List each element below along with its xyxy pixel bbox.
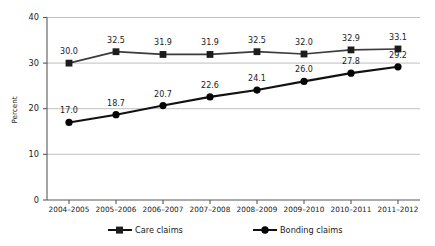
care-claims-point	[348, 46, 355, 53]
care-claims-point	[254, 48, 261, 55]
y-tick-label-0: 0	[34, 195, 39, 205]
legend-item-care-claims[interactable]: Care claims	[108, 225, 183, 235]
y-axis-tick-labels: 40 30 20 10 0	[29, 12, 39, 205]
bonding-claims-value-label: 20.7	[154, 90, 172, 99]
care-claims-value-label: 31.9	[154, 38, 172, 47]
line-chart: 40 30 20 10 0 Percent 2004–2005 2005–200…	[0, 0, 435, 246]
legend: Care claims Bonding claims	[108, 225, 343, 235]
bonding-claims-value-label: 17.0	[60, 106, 78, 115]
bonding-claims-point	[253, 86, 260, 93]
bonding-claims-value-label: 29.2	[389, 51, 407, 60]
bonding-claims-value-label: 27.8	[342, 57, 360, 66]
x-axis-tick-labels: 2004–2005 2005–2006 2006–2007 2007–2008 …	[49, 205, 419, 214]
bonding-claims-point	[206, 93, 213, 100]
series-bonding-claims: 17.018.720.722.624.126.027.829.2	[60, 51, 407, 126]
care-claims-value-label: 32.0	[295, 38, 313, 47]
bonding-claims-point	[65, 119, 72, 126]
y-tick-label-40: 40	[29, 12, 39, 22]
x-tick-label-4: 2008–2009	[237, 205, 278, 214]
bonding-claims-markers	[65, 63, 401, 126]
bonding-claims-value-label: 26.0	[295, 65, 313, 74]
x-tick-label-1: 2005–2006	[96, 205, 137, 214]
bonding-claims-point	[159, 102, 166, 109]
care-claims-point	[160, 51, 167, 58]
y-tick-label-30: 30	[29, 58, 39, 68]
bonding-claims-value-label: 18.7	[107, 99, 125, 108]
chart-canvas: 40 30 20 10 0 Percent 2004–2005 2005–200…	[0, 0, 435, 246]
care-claims-point	[66, 60, 73, 67]
care-claims-value-label: 32.5	[248, 36, 266, 45]
x-tick-label-3: 2007–2008	[190, 205, 231, 214]
square-marker-icon	[116, 227, 123, 234]
bonding-claims-point	[394, 63, 401, 70]
x-axis-ticks	[69, 200, 398, 204]
x-tick-label-2: 2006–2007	[143, 205, 184, 214]
x-tick-label-6: 2010–2011	[331, 205, 372, 214]
legend-label-bonding: Bonding claims	[280, 225, 343, 235]
gridlines	[47, 18, 420, 155]
y-tick-label-10: 10	[29, 149, 39, 159]
legend-item-bonding-claims[interactable]: Bonding claims	[253, 225, 343, 235]
care-claims-value-label: 31.9	[201, 38, 219, 47]
bonding-claims-point	[300, 78, 307, 85]
y-tick-label-20: 20	[29, 103, 39, 113]
y-axis-ticks	[43, 18, 47, 201]
legend-label-care: Care claims	[135, 225, 183, 235]
bonding-claims-point	[112, 111, 119, 118]
bonding-claims-value-label: 22.6	[201, 81, 219, 90]
care-claims-value-label: 33.1	[389, 33, 407, 42]
care-claims-value-label: 30.0	[60, 47, 78, 56]
circle-marker-icon	[261, 226, 268, 233]
care-claims-point	[113, 48, 120, 55]
y-axis-title: Percent	[10, 96, 19, 123]
bonding-claims-value-labels: 17.018.720.722.624.126.027.829.2	[60, 51, 407, 116]
x-tick-label-5: 2009–2010	[284, 205, 325, 214]
care-claims-value-label: 32.5	[107, 36, 125, 45]
bonding-claims-value-label: 24.1	[248, 74, 266, 83]
care-claims-point	[301, 51, 308, 58]
care-claims-point	[207, 51, 214, 58]
x-tick-label-0: 2004–2005	[49, 205, 90, 214]
x-tick-label-7: 2011–2012	[378, 205, 419, 214]
bonding-claims-point	[347, 70, 354, 77]
care-claims-value-label: 32.9	[342, 34, 360, 43]
